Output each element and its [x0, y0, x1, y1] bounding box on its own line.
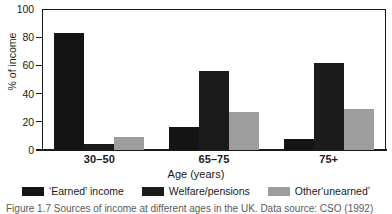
bar-0-0 — [54, 33, 84, 150]
legend-label: Welfare/pensions — [169, 186, 250, 197]
figure-income-by-age: % of income 020406080100 30–5065–7575+ A… — [0, 0, 392, 214]
x-tick-label: 30–50 — [59, 153, 139, 165]
bar-2-2 — [344, 109, 374, 150]
bar-1-2 — [314, 63, 344, 150]
x-tick-label: 75+ — [289, 153, 369, 165]
y-tick-label: 20 — [4, 117, 34, 128]
bar-0-1 — [169, 127, 199, 150]
bar-1-1 — [199, 71, 229, 150]
legend-item-2: Other‘unearned’ — [268, 186, 370, 197]
x-tick-label: 65–75 — [174, 153, 254, 165]
bar-2-1 — [229, 112, 259, 150]
legend-swatch-icon — [22, 187, 44, 196]
legend-item-0: ‘Earned’ income — [22, 186, 124, 197]
chart-legend: ‘Earned’ incomeWelfare/pensionsOther‘une… — [0, 185, 392, 198]
legend-swatch-icon — [142, 187, 164, 196]
y-tick-label: 0 — [4, 145, 34, 156]
y-tick-label: 40 — [4, 89, 34, 100]
y-tick-label: 80 — [4, 32, 34, 43]
bar-1-0 — [84, 144, 114, 150]
legend-label: ‘Earned’ income — [49, 186, 124, 197]
legend-swatch-icon — [268, 187, 290, 196]
bar-0-2 — [284, 139, 314, 150]
legend-item-1: Welfare/pensions — [142, 186, 250, 197]
bar-2-0 — [114, 137, 144, 150]
legend-label: Other‘unearned’ — [295, 186, 370, 197]
y-tick-label: 60 — [4, 60, 34, 71]
y-tick-label: 100 — [4, 4, 34, 15]
figure-caption-text: Figure 1.7 Sources of income at differen… — [6, 203, 392, 214]
figure-caption: Figure 1.7 Sources of income at differen… — [6, 203, 392, 214]
x-axis-title: Age (years) — [0, 168, 392, 180]
